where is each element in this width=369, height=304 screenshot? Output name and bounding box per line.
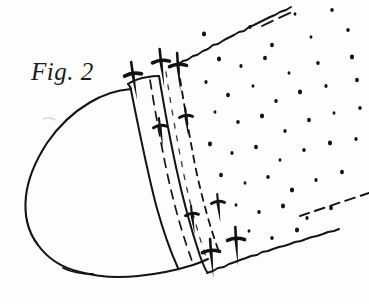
tack-stub [177, 53, 178, 65]
stipple-dot [305, 216, 308, 220]
stipple-dot [235, 203, 238, 206]
stipple-dot [248, 229, 251, 232]
stipple-dot [333, 111, 336, 114]
stipple-dot [310, 35, 313, 38]
tack-stub [185, 108, 186, 116]
stipple-dot [270, 236, 274, 240]
stipple-dot [217, 57, 221, 62]
stipple-dot [274, 99, 278, 103]
stipple-dot [350, 55, 354, 60]
stipple-dot [279, 158, 282, 161]
stipple-dot [354, 137, 357, 141]
figure-container: Fig. 2 [0, 0, 369, 304]
stipple-dot [230, 151, 233, 155]
stipple-dot [346, 28, 350, 32]
tack-stub [210, 239, 211, 251]
stipple-dot [302, 148, 306, 152]
stipple-dot [329, 206, 333, 211]
stipple-dot [248, 25, 251, 29]
stipple-dot [283, 129, 286, 133]
stipple-dot [263, 56, 267, 61]
stipple-dot [260, 114, 264, 119]
stipple-dot [288, 71, 291, 74]
tack-stub [160, 49, 161, 61]
figure-label: Fig. 2 [31, 58, 94, 86]
stipple-dot [254, 145, 258, 150]
stipple-dot [355, 78, 359, 83]
stipple-dot [328, 141, 332, 146]
stipple-dot [358, 106, 362, 110]
stipple-dot [204, 80, 207, 84]
tack-stub [191, 206, 192, 214]
stipple-dot [330, 8, 334, 12]
stipple-dot [298, 90, 302, 95]
stipple-dot [236, 120, 240, 124]
tack-stub [217, 194, 218, 202]
stipple-dot [270, 43, 274, 48]
stipple-dot [307, 118, 311, 123]
stipple-dot [214, 110, 217, 113]
stipple-dot [202, 32, 206, 37]
tack-stub [131, 62, 133, 74]
stipple-dot [244, 181, 247, 184]
stipple-dot [281, 204, 285, 209]
stipple-dot [266, 175, 270, 179]
stipple-dot [290, 188, 294, 193]
stipple-dot [324, 84, 327, 88]
stipple-dot [316, 61, 320, 65]
stipple-dot [257, 210, 261, 214]
tack-stub [159, 118, 160, 126]
stipple-dot [252, 84, 255, 87]
figure-background [0, 0, 369, 304]
stipple-dot [340, 170, 344, 175]
stipple-dot [219, 173, 223, 178]
stipple-dot [208, 142, 212, 147]
stipple-dot [239, 64, 242, 68]
stipple-dot [314, 178, 317, 182]
stipple-dot [294, 12, 297, 15]
tack-stub [235, 227, 236, 239]
stipple-dot [295, 228, 299, 233]
stipple-dot [226, 93, 230, 98]
figure-drawing [0, 0, 369, 304]
